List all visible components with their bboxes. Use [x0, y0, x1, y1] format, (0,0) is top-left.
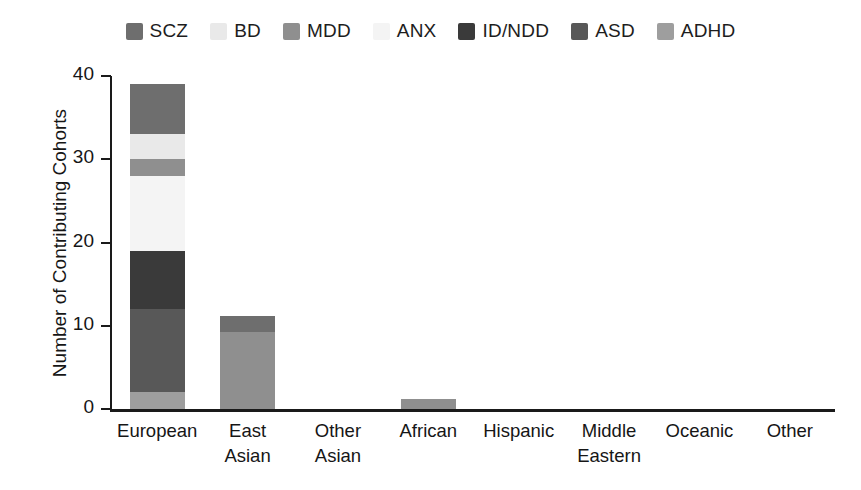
bar-segment-mdd[interactable] — [130, 159, 185, 176]
bar-segment-bd[interactable] — [130, 134, 185, 159]
stacked-bar-chart: SCZBDMDDANXID/NDDASDADHD Number of Contr… — [0, 0, 861, 490]
y-axis-tick-label: 20 — [48, 230, 94, 252]
x-axis-line — [110, 409, 835, 412]
y-axis-tick — [101, 158, 111, 160]
bar-stack-inner — [130, 84, 185, 409]
bar-segment-anx[interactable] — [130, 176, 185, 251]
bar-segment-id-ndd[interactable] — [130, 251, 185, 309]
bar-stack-african[interactable] — [401, 76, 456, 409]
bar-stack-oceanic[interactable] — [672, 76, 727, 409]
plot-area: Number of Contributing Cohorts 010203040… — [0, 0, 861, 490]
bar-series-container — [112, 76, 835, 409]
bar-segment-asd[interactable] — [130, 309, 185, 392]
bar-segment-scz[interactable] — [130, 84, 185, 134]
bar-stack-european[interactable] — [130, 76, 185, 409]
y-axis-tick — [101, 75, 111, 77]
x-axis-label-line: Other — [720, 418, 860, 443]
bar-segment-adhd[interactable] — [130, 392, 185, 409]
x-axis-label: Other — [720, 418, 860, 443]
y-axis-tick-label: 0 — [48, 396, 94, 418]
bar-segment-mdd[interactable] — [220, 332, 275, 409]
bar-stack-inner — [220, 316, 275, 409]
x-axis-label-line: Asian — [268, 443, 408, 468]
bar-segment-mdd[interactable] — [401, 399, 456, 409]
bar-stack-hispanic[interactable] — [491, 76, 546, 409]
bar-segment-scz[interactable] — [220, 316, 275, 333]
y-axis-tick-label: 40 — [48, 63, 94, 85]
bar-stack-east-asian[interactable] — [220, 76, 275, 409]
y-axis-tick — [101, 408, 111, 410]
bar-stack-middle-eastern[interactable] — [582, 76, 637, 409]
x-axis-labels: EuropeanEastAsianOtherAsianAfricanHispan… — [112, 418, 835, 478]
bar-stack-other-asian[interactable] — [310, 76, 365, 409]
y-axis-tick — [101, 242, 111, 244]
y-axis-tick — [101, 325, 111, 327]
y-axis-tick-label: 10 — [48, 313, 94, 335]
x-axis-label-line: Eastern — [539, 443, 679, 468]
y-axis-tick-label: 30 — [48, 146, 94, 168]
bar-stack-inner — [401, 399, 456, 409]
bar-stack-other[interactable] — [762, 76, 817, 409]
